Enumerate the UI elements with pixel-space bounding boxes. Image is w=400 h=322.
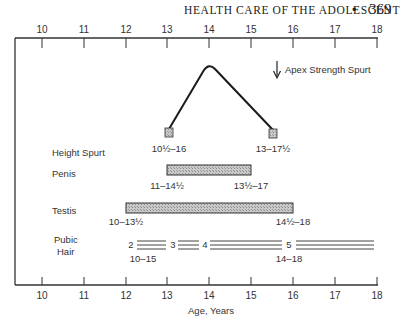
top-tick-13: 13	[161, 24, 173, 35]
stage-3-label: 3	[170, 239, 175, 250]
bottom-tick-13: 13	[161, 290, 173, 301]
bottom-tick-18: 18	[371, 290, 383, 301]
apex-strength-label: Apex Strength Spurt	[285, 64, 371, 75]
stage-4-lines	[210, 241, 282, 249]
height-spurt-start-range: 10½–16	[152, 143, 186, 154]
bottom-tick-17: 17	[329, 290, 341, 301]
testis-row: Testis 10–13½ 14½–18	[52, 203, 310, 227]
stage-5-label: 5	[286, 239, 291, 250]
testis-end-range: 14½–18	[276, 216, 310, 227]
height-spurt-label: Height Spurt	[52, 147, 105, 158]
bottom-x-axis: 10 11 12 13 14 15 16 17 18 Age, Years	[36, 277, 383, 316]
top-tick-10: 10	[36, 24, 48, 35]
top-x-axis: 10 11 12 13 14 15 16 17 18	[36, 24, 383, 48]
pubic-hair-label-line1: Pubic	[54, 234, 78, 245]
top-tick-15: 15	[245, 24, 257, 35]
penis-row: Penis 11–14½ 13½–17	[52, 165, 268, 191]
top-tick-17: 17	[329, 24, 341, 35]
stage-2-lines	[137, 241, 166, 249]
bottom-tick-15: 15	[245, 290, 257, 301]
bottom-tick-11: 11	[79, 290, 90, 301]
pubic-hair-end-range: 14–18	[276, 253, 302, 264]
testis-start-range: 10–13½	[109, 216, 143, 227]
top-tick-11: 11	[79, 24, 90, 35]
height-spurt-start-marker	[165, 128, 173, 137]
top-tick-12: 12	[120, 24, 132, 35]
penis-end-range: 13½–17	[234, 180, 268, 191]
top-tick-18: 18	[371, 24, 383, 35]
penis-bar	[167, 165, 251, 175]
top-tick-14: 14	[203, 24, 215, 35]
pubic-hair-label-line2: Hair	[57, 246, 74, 257]
stage-2-label: 2	[128, 239, 133, 250]
penis-start-range: 11–14½	[150, 180, 184, 191]
x-axis-title: Age, Years	[188, 305, 234, 316]
height-spurt-curve: Height Spurt 10½–16 13–17½	[52, 66, 290, 158]
stage-3-lines	[178, 241, 199, 249]
bottom-tick-14: 14	[203, 290, 215, 301]
bottom-tick-10: 10	[36, 290, 48, 301]
testis-label: Testis	[52, 205, 77, 216]
height-spurt-end-marker	[269, 129, 277, 138]
top-tick-16: 16	[287, 24, 299, 35]
height-spurt-end-range: 13–17½	[256, 143, 290, 154]
bottom-tick-16: 16	[287, 290, 299, 301]
bottom-tick-12: 12	[120, 290, 132, 301]
pubic-hair-start-range: 10–15	[130, 253, 156, 264]
penis-label: Penis	[52, 168, 76, 179]
pubic-hair-row: Pubic Hair 2 3 4 5 10–15 14–18	[54, 234, 374, 264]
apex-strength-legend: Apex Strength Spurt	[274, 61, 371, 78]
stage-4-label: 4	[202, 239, 207, 250]
testis-bar	[126, 203, 293, 213]
stage-5-lines	[296, 241, 374, 249]
